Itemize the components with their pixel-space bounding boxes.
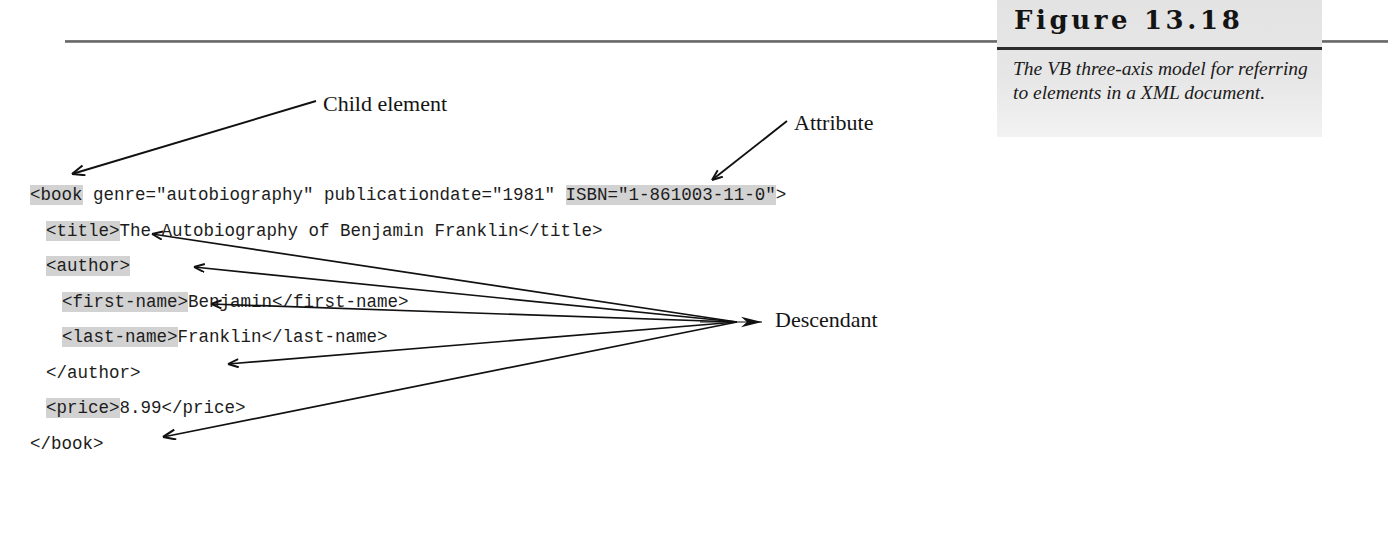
annotation-arrows (0, 0, 1388, 536)
arrow-attribute (712, 121, 787, 180)
arrow-descendant-last-name (228, 322, 737, 364)
figure-page: Figure 13.18 The VB three-axis model for… (0, 0, 1388, 536)
arrow-descendant-price (163, 322, 737, 437)
arrow-child-element (72, 101, 316, 174)
arrow-descendant-title (152, 234, 737, 322)
arrow-descendant-first-name (211, 304, 737, 322)
arrow-descendant-author (194, 267, 737, 322)
